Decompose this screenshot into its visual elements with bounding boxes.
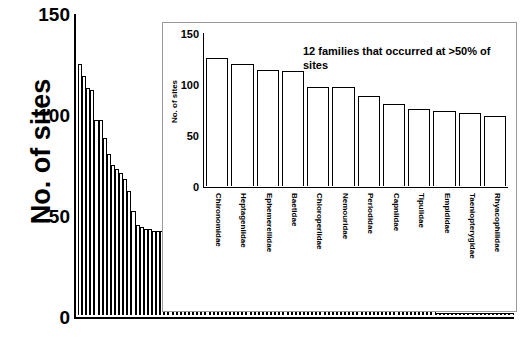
inset-x-tick-label: Heptageniidae [239, 193, 248, 248]
inset-x-tick-label: Tipulidae [417, 193, 426, 228]
inset-x-label-slot: Tipulidae [408, 191, 433, 311]
inset-bar [459, 113, 481, 185]
inset-x-label-slot: Chironomidae [205, 191, 230, 311]
inset-bar [231, 64, 253, 185]
main-y-tick-label: 50 [49, 206, 70, 228]
inset-bar [433, 111, 455, 185]
inset-bar [332, 87, 354, 186]
inset-chart: No. of sites 050100150 12 families that … [162, 22, 517, 312]
inset-y-tick-label: 50 [187, 130, 199, 142]
inset-x-tick-label: Chironomidae [213, 193, 222, 247]
main-y-tick-label: 100 [38, 105, 70, 127]
inset-x-tick-label: Perlodidae [366, 193, 375, 234]
main-y-tick-label: 0 [59, 307, 70, 329]
main-y-axis-ticks: 050100150 [26, 14, 70, 319]
inset-x-tick-label: Baetidae [289, 193, 298, 226]
inset-y-tick-label: 100 [181, 79, 199, 91]
inset-y-tick-label: 150 [181, 28, 199, 40]
inset-x-axis-labels: ChironomidaeHeptageniidaeEphemerellidaeB… [205, 191, 510, 311]
main-y-tick-label: 150 [38, 4, 70, 26]
inset-x-label-slot: Taeniopterygidae [459, 191, 484, 311]
inset-x-tick-label: Capniidae [391, 193, 400, 231]
inset-bar [358, 96, 380, 186]
inset-bar [484, 116, 506, 185]
inset-x-label-slot: Rhyacophilidae [485, 191, 510, 311]
inset-x-tick-label: Taeniopterygidae [467, 193, 476, 259]
inset-bar [282, 71, 304, 185]
inset-x-tick-label: Ephemerellidae [264, 193, 273, 252]
inset-x-label-slot: Capniidae [383, 191, 408, 311]
inset-bar [307, 87, 329, 186]
inset-bar [383, 104, 405, 186]
main-bar [509, 313, 513, 315]
inset-x-tick-label: Chloroperlidae [315, 193, 324, 249]
inset-x-label-slot: Nemouridae [332, 191, 357, 311]
figure: No. of sites 050100150 No. of sites 0501… [0, 0, 522, 340]
inset-x-label-slot: Baetidae [281, 191, 306, 311]
inset-x-label-slot: Heptageniidae [230, 191, 255, 311]
inset-x-tick-label: Rhyacophilidae [493, 193, 502, 252]
inset-x-label-slot: Perlodidae [358, 191, 383, 311]
inset-bar [257, 70, 279, 185]
inset-annotation-text: 12 families that occurred at >50% of sit… [303, 45, 498, 73]
inset-x-tick-label: Nemouridae [340, 193, 349, 239]
inset-y-axis-ticks: 050100150 [171, 33, 199, 188]
inset-bar [408, 109, 430, 186]
inset-y-tick-label: 0 [193, 181, 199, 193]
inset-x-label-slot: Chloroperlidae [307, 191, 332, 311]
inset-x-label-slot: Empididae [434, 191, 459, 311]
inset-x-tick-label: Empididae [442, 193, 451, 233]
inset-x-label-slot: Ephemerellidae [256, 191, 281, 311]
inset-bar [206, 58, 228, 186]
